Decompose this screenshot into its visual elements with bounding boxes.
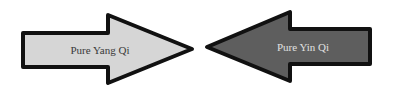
yin-arrow-label: Pure Yin Qi [277,41,329,53]
yin-yang-qi-diagram: Pure Yang Qi Pure Yin Qi [0,0,394,95]
yang-arrow-label: Pure Yang Qi [71,44,130,56]
